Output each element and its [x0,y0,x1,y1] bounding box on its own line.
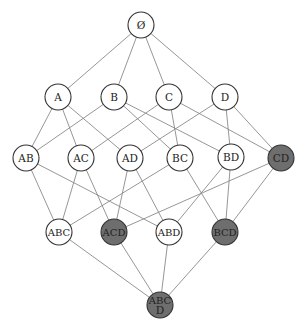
node-label: BC [172,152,188,164]
node-label: BCD [213,227,236,238]
node-b: B [101,84,127,110]
lattice-diagram: ØABCDABACADBCBDCDABCACDABDBCDABCD [0,0,304,328]
node-label: ABC [47,227,71,238]
node-label: D [221,91,229,103]
node-label: D [156,304,164,316]
edge-empty-d [141,25,225,97]
edge-layer [26,25,281,305]
node-label: BD [223,151,239,163]
node-acd: ACD [101,219,127,245]
node-label: AB [17,152,34,164]
node-cd: CD [268,145,294,171]
edge-cd-acd [114,158,281,232]
node-a: A [45,84,71,110]
node-empty: Ø [128,12,154,38]
node-d: D [212,84,238,110]
node-label: AD [121,152,138,164]
node-bd: BD [218,144,244,170]
node-label: ACD [102,227,126,238]
node-label: B [110,91,118,103]
node-ad: AD [117,145,143,171]
node-label: ABD [157,227,181,238]
node-abcd: ABCD [147,292,173,318]
node-abc: ABC [46,219,72,245]
node-label: A [53,91,62,103]
node-label: AC [72,152,89,164]
node-label: CD [273,152,289,164]
node-ab: AB [13,145,39,171]
node-label: Ø [137,19,146,31]
node-bcd: BCD [212,219,238,245]
edge-b-ab [26,97,114,158]
node-c: C [156,84,182,110]
node-ac: AC [68,145,94,171]
node-label: C [165,91,173,103]
node-bc: BC [167,145,193,171]
edge-empty-a [58,25,141,97]
node-abd: ABD [156,219,182,245]
